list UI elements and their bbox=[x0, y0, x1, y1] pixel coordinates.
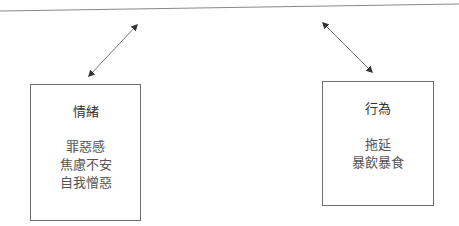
emotion-item: 焦慮不安 bbox=[31, 156, 140, 174]
emotion-box: 情緒 罪惡感 焦慮不安 自我憎惡 bbox=[30, 84, 141, 221]
emotion-box-title: 情緒 bbox=[31, 104, 140, 120]
behavior-box-items: 拖延 暴飲暴食 bbox=[323, 136, 433, 172]
behavior-item: 拖延 bbox=[323, 136, 433, 154]
behavior-box-title: 行為 bbox=[323, 101, 433, 117]
behavior-box: 行為 拖延 暴飲暴食 bbox=[322, 81, 434, 206]
double-arrow-left bbox=[89, 25, 137, 76]
behavior-item: 暴飲暴食 bbox=[323, 154, 433, 172]
emotion-item: 自我憎惡 bbox=[31, 174, 140, 192]
top-divider-line bbox=[0, 4, 459, 11]
double-arrow-right bbox=[323, 23, 372, 72]
emotion-item: 罪惡感 bbox=[31, 138, 140, 156]
emotion-box-items: 罪惡感 焦慮不安 自我憎惡 bbox=[31, 138, 140, 192]
